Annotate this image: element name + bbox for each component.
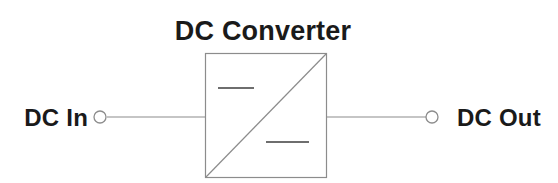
dc-converter-diagram: DC Converter DC In DC Out [0,0,558,183]
input-label: DC In [24,104,88,131]
input-terminal-icon [94,111,106,123]
output-terminal-icon [426,111,438,123]
output-label: DC Out [457,104,541,131]
block-title: DC Converter [175,16,352,46]
diagram-canvas: DC Converter DC In DC Out [0,0,558,183]
